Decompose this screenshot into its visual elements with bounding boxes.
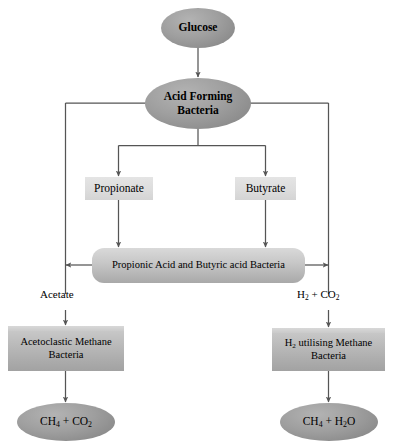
edge-label-hydrogen-carbon-dioxide: H2 + CO2: [297, 288, 339, 300]
ch4-co2-co-sub: 2: [88, 420, 92, 429]
h2co2-plus: +: [309, 288, 321, 300]
h2-utilising-rest: utilising Methane: [296, 337, 372, 348]
node-h2-utilising-methane-bacteria[interactable]: H2 utilising Methane Bacteria: [272, 328, 385, 371]
ch4-h2o-ch-sub: 4: [319, 420, 323, 429]
ch4-h2o-h-sub: 2: [343, 420, 347, 429]
node-h2-utilising-methane-bacteria-label-line1: H2 utilising Methane: [285, 337, 373, 349]
h2co2-co: CO: [320, 288, 335, 300]
ch4-h2o-ch: CH: [303, 415, 319, 427]
node-butyrate[interactable]: Butyrate: [235, 177, 296, 200]
node-propionate[interactable]: Propionate: [85, 177, 153, 200]
node-methane-co2-product-label: CH4 + CO2: [40, 415, 92, 429]
node-acetoclastic-methane-bacteria-label-line1: Acetoclastic Methane: [20, 336, 111, 348]
node-propionic-butyric-bacteria[interactable]: Propionic Acid and Butyric acid Bacteria: [92, 248, 305, 283]
h2co2-co-sub: 2: [336, 293, 340, 302]
node-methane-co2-product[interactable]: CH4 + CO2: [17, 403, 115, 441]
node-acetoclastic-methane-bacteria-label-line2: Bacteria: [49, 349, 84, 361]
node-acid-forming-bacteria-label-line1: Acid Forming: [164, 90, 233, 104]
ch4-h2o-h: H: [335, 415, 343, 427]
h2co2-h: H: [297, 288, 305, 300]
node-acetoclastic-methane-bacteria[interactable]: Acetoclastic Methane Bacteria: [8, 326, 124, 371]
node-methane-water-product[interactable]: CH4 + H2O: [280, 403, 378, 441]
node-methane-water-product-label: CH4 + H2O: [303, 415, 356, 429]
ch4-co2-co: CO: [72, 415, 88, 427]
ch4-co2-ch-sub: 4: [56, 420, 60, 429]
node-propionate-label: Propionate: [94, 182, 144, 196]
node-h2-utilising-methane-bacteria-label-line2: Bacteria: [311, 350, 346, 362]
node-acid-forming-bacteria-label-line2: Bacteria: [177, 104, 219, 118]
node-butyrate-label: Butyrate: [246, 182, 286, 196]
diagram-canvas: Glucose Acid Forming Bacteria Propionate…: [0, 0, 397, 448]
node-glucose-label: Glucose: [179, 21, 218, 35]
ch4-co2-plus: +: [60, 415, 72, 427]
ch4-co2-ch: CH: [40, 415, 56, 427]
node-propionic-butyric-bacteria-label: Propionic Acid and Butyric acid Bacteria: [112, 259, 285, 271]
ch4-h2o-o: O: [347, 415, 355, 427]
h2co2-h-sub: 2: [305, 293, 309, 302]
edge-label-acetate: Acetate: [40, 288, 74, 300]
h2-utilising-h-sub: 2: [292, 342, 296, 350]
diagram-edges: [0, 0, 397, 448]
ch4-h2o-plus: +: [323, 415, 335, 427]
node-glucose[interactable]: Glucose: [161, 8, 235, 48]
node-acid-forming-bacteria[interactable]: Acid Forming Bacteria: [145, 78, 251, 129]
